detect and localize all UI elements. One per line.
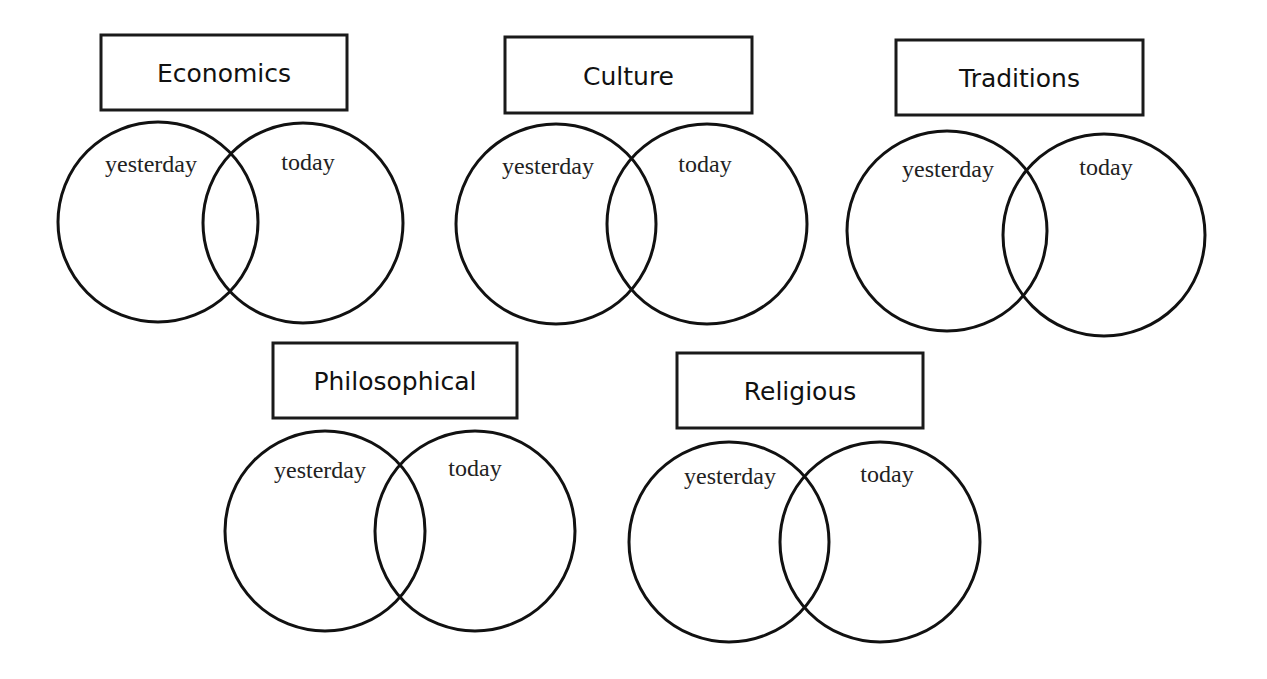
- diagram-title: Traditions: [958, 64, 1080, 93]
- diagram-title: Philosophical: [313, 367, 476, 396]
- venn-worksheet: EconomicsyesterdaytodayCultureyesterdayt…: [0, 0, 1267, 679]
- yesterday-label: yesterday: [902, 156, 994, 182]
- venn-diagram-economics: Economicsyesterdaytoday: [58, 35, 403, 323]
- yesterday-label: yesterday: [502, 153, 594, 179]
- yesterday-label: yesterday: [274, 457, 366, 483]
- venn-diagram-religious: Religiousyesterdaytoday: [629, 353, 980, 642]
- venn-diagram-culture: Cultureyesterdaytoday: [456, 37, 807, 324]
- venn-diagram-philosophical: Philosophicalyesterdaytoday: [225, 343, 575, 631]
- today-label: today: [1079, 154, 1132, 180]
- today-label: today: [860, 461, 913, 487]
- diagram-title: Culture: [583, 62, 674, 91]
- diagram-title: Religious: [744, 377, 857, 406]
- today-label: today: [678, 151, 731, 177]
- venn-diagram-traditions: Traditionsyesterdaytoday: [847, 40, 1205, 336]
- today-label: today: [281, 149, 334, 175]
- yesterday-label: yesterday: [684, 463, 776, 489]
- today-label: today: [448, 455, 501, 481]
- diagram-title: Economics: [157, 59, 291, 88]
- yesterday-label: yesterday: [105, 151, 197, 177]
